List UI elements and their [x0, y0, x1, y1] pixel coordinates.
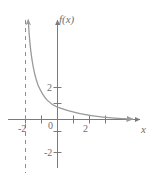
graph-figure: f(x) x 2 -2 0 -2 2 — [0, 0, 154, 176]
origin-label: 0 — [48, 121, 53, 131]
x-tick-label-minus-2: -2 — [18, 124, 26, 134]
function-curve — [28, 22, 133, 119]
y-tick-label-minus-2: -2 — [44, 148, 52, 158]
plot-area — [0, 0, 154, 176]
x-axis-label: x — [141, 124, 146, 135]
y-axis-label: f(x) — [59, 14, 74, 25]
x-tick-label-2: 2 — [83, 124, 88, 134]
y-tick-label-2: 2 — [47, 83, 52, 93]
